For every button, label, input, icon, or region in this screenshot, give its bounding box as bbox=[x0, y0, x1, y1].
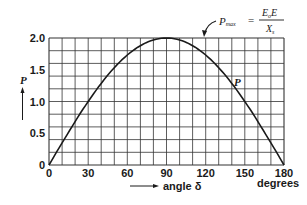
x-tick-label: 150 bbox=[236, 167, 254, 179]
x-axis-unit: degrees bbox=[257, 177, 299, 189]
y-tick-label: 1.0 bbox=[30, 96, 45, 108]
formula-numerator: EoE bbox=[261, 7, 277, 19]
curve-label: P bbox=[234, 76, 241, 88]
formula-denominator: Xs bbox=[265, 23, 275, 35]
pmax-formula: Pmax = EoE Xs bbox=[202, 7, 284, 37]
formula-lhs: Pmax bbox=[218, 15, 236, 27]
y-tick-label: 0.5 bbox=[30, 127, 45, 139]
x-tick-label: 0 bbox=[46, 167, 52, 179]
y-axis-ticks: 00.51.01.52.0 bbox=[30, 32, 45, 171]
y-tick-label: 0 bbox=[39, 159, 45, 171]
y-axis-label: P bbox=[20, 74, 27, 86]
x-tick-label: 60 bbox=[121, 167, 133, 179]
grid-lines bbox=[49, 38, 284, 165]
x-axis-arrow-icon bbox=[130, 184, 159, 188]
formula-equals: = bbox=[248, 14, 254, 26]
x-axis-label: angle δ bbox=[163, 180, 202, 192]
x-tick-label: 120 bbox=[196, 167, 214, 179]
y-tick-label: 2.0 bbox=[30, 32, 45, 44]
power-angle-chart: 00.51.01.52.0 0306090120150180 P angle δ… bbox=[0, 0, 307, 205]
x-tick-label: 30 bbox=[82, 167, 94, 179]
y-tick-label: 1.5 bbox=[30, 64, 45, 76]
y-axis-arrow-icon bbox=[21, 87, 25, 120]
x-tick-label: 90 bbox=[160, 167, 172, 179]
